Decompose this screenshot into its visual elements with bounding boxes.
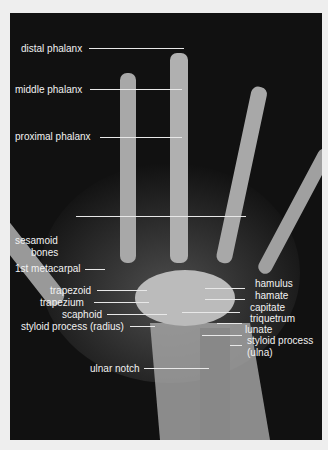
label-styloid-process-radius: styloid process (radius) — [21, 321, 124, 332]
label-capitate: capitate — [250, 302, 285, 313]
label-bones: bones — [31, 247, 58, 258]
label-styloid-process-ulna: styloid process — [247, 335, 313, 346]
label-first-metacarpal: 1st metacarpal — [15, 263, 81, 274]
label-ulnar-notch: ulnar notch — [90, 363, 139, 374]
label-distal-phalanx: distal phalanx — [21, 43, 82, 54]
label-hamate: hamate — [255, 290, 288, 301]
label-proximal-phalanx: proximal phalanx — [15, 131, 91, 142]
label-sesamoid: sesamoid — [15, 235, 58, 246]
label-ulna: (ulna) — [247, 347, 273, 358]
label-triquetrum: triquetrum — [250, 313, 295, 324]
label-hamulus: hamulus — [255, 278, 293, 289]
hand-bones-illustration — [10, 13, 322, 440]
label-lunate: lunate — [245, 324, 272, 335]
label-scaphoid: scaphoid — [62, 309, 102, 320]
label-trapezoid: trapezoid — [50, 285, 91, 296]
xray-image: distal phalanx middle phalanx proximal p… — [10, 13, 322, 440]
label-middle-phalanx: middle phalanx — [15, 84, 82, 95]
label-trapezium: trapezium — [40, 297, 84, 308]
